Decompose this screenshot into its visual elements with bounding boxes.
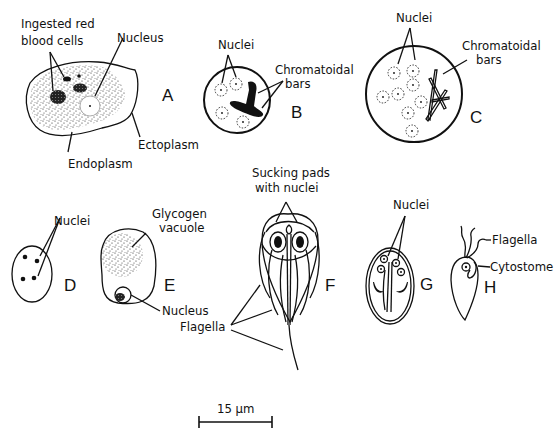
cyst-wall [366, 46, 462, 142]
label-nuclei-g: Nuclei [393, 197, 429, 212]
label-chromatoidal-b-2: bars [285, 76, 311, 91]
label-glycogen-2: vacuole [159, 220, 205, 235]
label-nucleus-a: Nucleus [117, 30, 164, 45]
panel-d: Nuclei D [12, 213, 90, 302]
label-cytostome: Cytostome [490, 259, 553, 274]
label-flagella-f: Flagella [180, 319, 225, 334]
median-body [373, 282, 384, 293]
panel-a: Ingested red blood cells Nucleus Ectopla… [21, 16, 199, 171]
label-sucking-pads-1: Sucking pads [252, 165, 330, 180]
red-blood-cell [73, 84, 87, 93]
label-nuclei-c: Nuclei [396, 10, 432, 25]
label-endoplasm: Endoplasm [68, 156, 133, 171]
panel-letter-d: D [64, 276, 76, 295]
panel-h: Flagella Cytostome H [451, 226, 553, 320]
panel-e: Glycogen vacuole Nucleus E [101, 206, 209, 318]
panel-letter-c: C [470, 108, 482, 127]
label-flagella-h: Flagella [492, 232, 537, 247]
caudal-flagella [289, 325, 298, 370]
label-chromatoidal-c-1: Chromatoidal [462, 38, 541, 53]
nuclei-c [377, 65, 427, 137]
panel-b: Nuclei Chromatoidal bars B [204, 37, 354, 133]
label-ingested-rbc-1: Ingested red [21, 16, 95, 31]
cyst-wall [204, 67, 270, 133]
label-nucleus-e: Nucleus [162, 303, 209, 318]
red-blood-cell [77, 74, 81, 78]
panel-letter-f: F [325, 276, 335, 295]
glycogen-vacuole [101, 233, 143, 277]
label-ingested-rbc-2: blood cells [21, 33, 83, 48]
panel-letter-h: H [484, 278, 496, 297]
label-chromatoidal-c-2: bars [476, 52, 502, 67]
scale-bar-label: 15 μm [217, 401, 254, 416]
label-nuclei-b: Nuclei [218, 37, 254, 52]
label-chromatoidal-b-1: Chromatoidal [275, 62, 354, 77]
protozoa-diagram: Ingested red blood cells Nucleus Ectopla… [0, 0, 556, 441]
label-nuclei-d: Nuclei [54, 213, 90, 228]
panel-letter-b: B [291, 103, 302, 122]
flagella-h [461, 226, 466, 258]
panel-f: Sucking pads with nuclei Flagella F [180, 165, 335, 370]
chromatoidal-bars-c [426, 70, 449, 121]
chromatoidal-bar [230, 81, 263, 116]
trophozoite-body [451, 257, 478, 320]
red-blood-cell [63, 77, 71, 82]
scale-bar: 15 μm [199, 401, 272, 428]
label-glycogen-1: Glycogen [152, 206, 207, 221]
label-sucking-pads-2: with nuclei [255, 180, 318, 195]
label-ectoplasm: Ectoplasm [138, 137, 199, 152]
panel-c: Nuclei Chromatoidal bars C [366, 10, 541, 142]
panel-letter-a: A [162, 86, 174, 105]
panel-letter-g: G [420, 275, 433, 294]
panel-g: Nuclei G [366, 197, 433, 324]
red-blood-cell [50, 90, 66, 104]
panel-letter-e: E [164, 276, 175, 295]
